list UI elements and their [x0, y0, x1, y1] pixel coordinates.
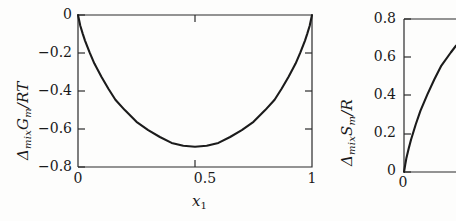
plot-svg-gibbs [0, 0, 316, 221]
data-curve-entropy [404, 46, 456, 172]
data-curve-gibbs [78, 15, 312, 147]
plot-frame-gibbs [78, 15, 312, 167]
chart-panel-entropy: ΔmixSm/R 0.8 0.6 0.4 0.2 0 0 [330, 0, 456, 221]
chart-panel-gibbs: ΔmixGm/RT 0 −0.2 −0.4 −0.6 −0.8 0 0.5 1 … [0, 0, 316, 221]
figure-container: ΔmixGm/RT 0 −0.2 −0.4 −0.6 −0.8 0 0.5 1 … [0, 0, 456, 221]
plot-svg-entropy [330, 0, 456, 221]
